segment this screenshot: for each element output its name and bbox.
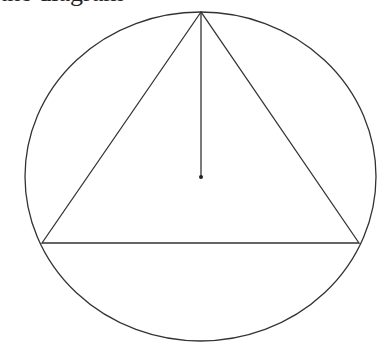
inscribed-triangle-diagram <box>0 0 384 351</box>
center-point <box>199 175 203 179</box>
